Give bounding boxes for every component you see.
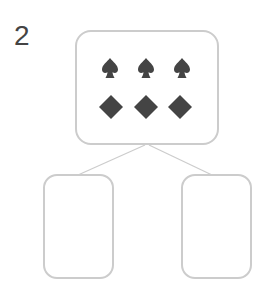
diamond-icon <box>99 95 123 119</box>
left-child-box[interactable] <box>43 174 114 279</box>
spade-icon <box>135 57 157 79</box>
parent-box <box>75 30 219 145</box>
spade-icon <box>171 57 193 79</box>
diamond-icon <box>134 95 158 119</box>
diamond-icon <box>168 95 192 119</box>
right-child-box[interactable] <box>181 174 252 279</box>
spade-icon <box>99 57 121 79</box>
